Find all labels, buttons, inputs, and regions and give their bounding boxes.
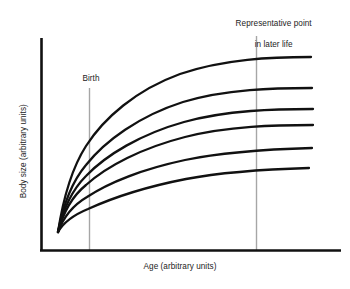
representative-point-annotation: Representative point in later life [207, 8, 331, 61]
representative-point-line-2: in later life [255, 40, 293, 49]
y-axis-label: Body size (arbitrary units) [19, 66, 30, 236]
growth-curve-5 [58, 148, 312, 232]
x-axis-label: Age (arbitrary units) [95, 262, 265, 273]
clipped-caption-sliver [14, 283, 336, 289]
growth-curve-figure: Representative point in later life Birth… [0, 0, 350, 289]
birth-annotation: Birth [76, 74, 106, 85]
representative-point-line-1: Representative point [236, 19, 312, 28]
